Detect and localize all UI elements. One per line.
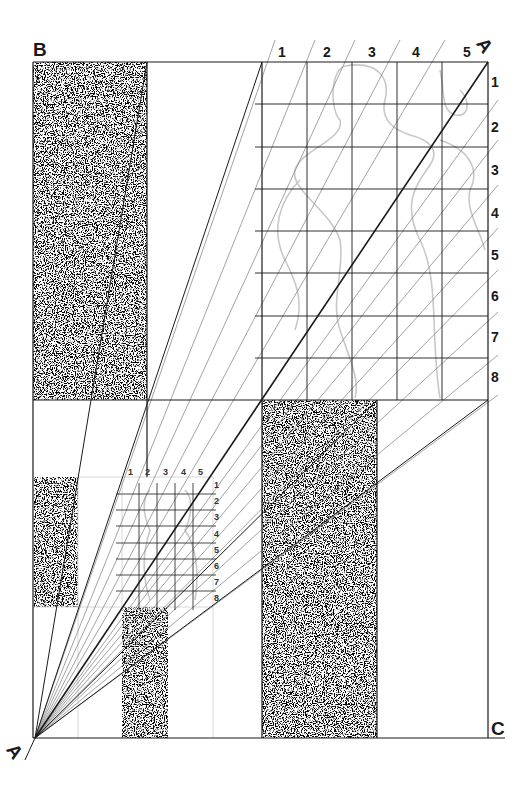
stipple-block-small-left xyxy=(34,477,78,607)
small-col-label: 3 xyxy=(163,468,168,477)
large-col-label: 3 xyxy=(368,45,376,59)
small-col-label: 4 xyxy=(181,468,186,477)
small-row-label: 3 xyxy=(214,513,219,522)
perspective-diagram: B A A C 1 2 3 4 5 1 2 3 4 5 6 7 8 1 2 3 … xyxy=(0,0,531,799)
large-row-label: 7 xyxy=(491,330,499,344)
large-col-label: 5 xyxy=(463,45,471,59)
small-row-label: 8 xyxy=(214,594,219,603)
small-row-label: 2 xyxy=(214,497,219,506)
small-grid xyxy=(116,483,216,610)
small-row-label: 1 xyxy=(214,481,219,490)
small-row-label: 5 xyxy=(214,546,219,555)
large-row-label: 4 xyxy=(491,206,499,220)
large-row-label: 5 xyxy=(491,248,499,262)
large-col-label: 2 xyxy=(323,45,331,59)
large-col-label: 1 xyxy=(278,45,286,59)
small-row-label: 6 xyxy=(214,562,219,571)
corner-label-b: B xyxy=(33,40,47,59)
large-grid xyxy=(255,62,488,400)
corner-label-c: C xyxy=(491,719,505,738)
large-col-label: 4 xyxy=(412,45,420,59)
large-row-label: 2 xyxy=(491,120,499,134)
diagram-canvas xyxy=(0,0,531,799)
small-col-label: 1 xyxy=(128,468,133,477)
small-col-label: 5 xyxy=(198,468,203,477)
large-row-label: 1 xyxy=(491,75,499,89)
large-row-label: 8 xyxy=(491,370,499,384)
small-row-label: 7 xyxy=(214,578,219,587)
small-row-label: 4 xyxy=(214,530,219,539)
small-col-label: 2 xyxy=(145,468,150,477)
large-row-label: 3 xyxy=(491,163,499,177)
large-row-label: 6 xyxy=(491,289,499,303)
stipple-block-top-left xyxy=(33,62,147,400)
